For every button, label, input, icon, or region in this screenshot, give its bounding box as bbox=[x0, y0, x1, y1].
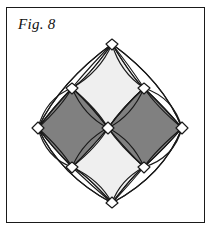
curved-diamond-rosette-figure bbox=[0, 0, 213, 232]
figure-page: Fig. 8 bbox=[0, 0, 213, 232]
figure-caption: Fig. 8 bbox=[18, 16, 56, 33]
